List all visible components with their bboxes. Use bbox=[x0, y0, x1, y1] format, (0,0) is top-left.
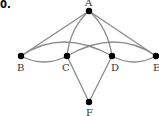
label-a: A bbox=[84, 0, 93, 8]
label-d: D bbox=[111, 62, 119, 73]
node-e bbox=[153, 53, 159, 59]
node-f bbox=[86, 99, 92, 105]
edge-b-c bbox=[21, 56, 67, 62]
node-c bbox=[64, 53, 70, 59]
edge-d-f bbox=[89, 56, 112, 102]
node-d bbox=[109, 53, 115, 59]
node-b bbox=[18, 53, 24, 59]
problem-number: 0. bbox=[0, 0, 11, 10]
edges bbox=[21, 11, 156, 102]
label-e: E bbox=[153, 62, 159, 73]
edge-c-f bbox=[67, 56, 89, 102]
edge-a-d bbox=[89, 11, 112, 56]
nodes bbox=[18, 8, 159, 105]
label-f: F bbox=[86, 107, 93, 116]
label-c: C bbox=[62, 62, 70, 73]
graph-diagram: 0. A B C D E F bbox=[0, 0, 159, 116]
label-b: B bbox=[17, 62, 24, 73]
node-a bbox=[86, 8, 92, 14]
